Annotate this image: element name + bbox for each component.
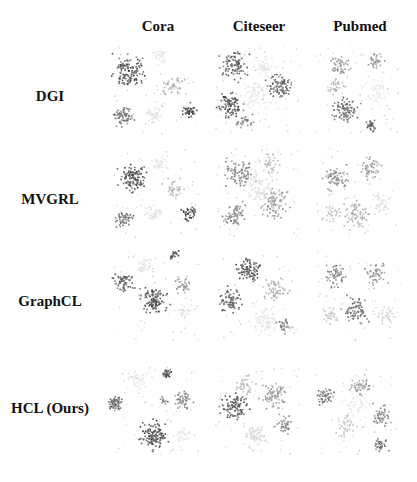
scatter-points xyxy=(305,40,410,140)
scatter-points xyxy=(305,245,410,345)
scatter-points xyxy=(204,245,309,345)
tsne-plot-graphcl-cora xyxy=(103,245,208,345)
column-header-pubmed: Pubmed xyxy=(310,18,410,35)
column-header-cora: Cora xyxy=(108,18,208,35)
column-header-citeseer: Citeseer xyxy=(209,18,309,35)
tsne-plot-mvgrl-pubmed xyxy=(305,143,410,243)
tsne-plot-dgi-pubmed xyxy=(305,40,410,140)
tsne-plot-hcl-cora xyxy=(103,360,208,460)
tsne-plot-dgi-cora xyxy=(103,40,208,140)
scatter-points xyxy=(103,245,208,345)
row-label-dgi: DGI xyxy=(0,88,100,105)
scatter-points xyxy=(204,143,309,243)
tsne-plot-mvgrl-citeseer xyxy=(204,143,309,243)
tsne-plot-graphcl-citeseer xyxy=(204,245,309,345)
tsne-plot-dgi-citeseer xyxy=(204,40,309,140)
scatter-points xyxy=(103,40,208,140)
scatter-points xyxy=(305,360,410,460)
scatter-points xyxy=(103,360,208,460)
tsne-plot-hcl-citeseer xyxy=(204,360,309,460)
row-label-hcl: HCL (Ours) xyxy=(0,400,100,417)
row-label-mvgrl: MVGRL xyxy=(0,191,100,208)
scatter-points xyxy=(305,143,410,243)
row-label-graphcl: GraphCL xyxy=(0,293,100,310)
scatter-points xyxy=(103,143,208,243)
scatter-points xyxy=(204,40,309,140)
tsne-plot-mvgrl-cora xyxy=(103,143,208,243)
scatter-points xyxy=(204,360,309,460)
tsne-plot-graphcl-pubmed xyxy=(305,245,410,345)
tsne-plot-hcl-pubmed xyxy=(305,360,410,460)
